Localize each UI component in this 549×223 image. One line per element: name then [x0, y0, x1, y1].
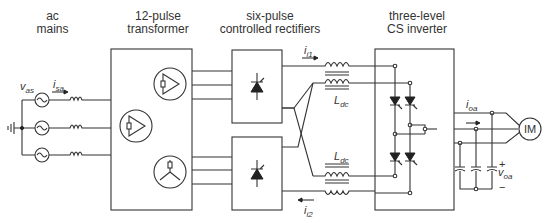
L-dc-bottom-label: Ldc: [334, 150, 349, 165]
ac-source-icon: [35, 148, 49, 162]
inverter-block: [375, 49, 454, 210]
i-sa-label: isa: [53, 78, 64, 93]
v-as-label: vas: [20, 80, 34, 95]
minus-sign: −: [499, 181, 505, 193]
rectifier-bottom-block: [232, 137, 282, 210]
rectifier-top-block: [232, 50, 282, 123]
ac-source-group: [8, 90, 111, 162]
i-i1-label: ii1: [304, 44, 313, 59]
ac-source-icon: [35, 121, 49, 135]
i-i2-label: ii2: [304, 204, 313, 219]
L-dc-top-label: Ldc: [334, 94, 349, 109]
motor-label: IM: [519, 123, 541, 136]
ac-source-icon: [35, 93, 49, 107]
i-oa-label: ioa: [466, 98, 477, 113]
transformer-block: [111, 49, 232, 210]
dc-link: [282, 56, 375, 202]
v-oa-label: voa: [498, 166, 512, 181]
